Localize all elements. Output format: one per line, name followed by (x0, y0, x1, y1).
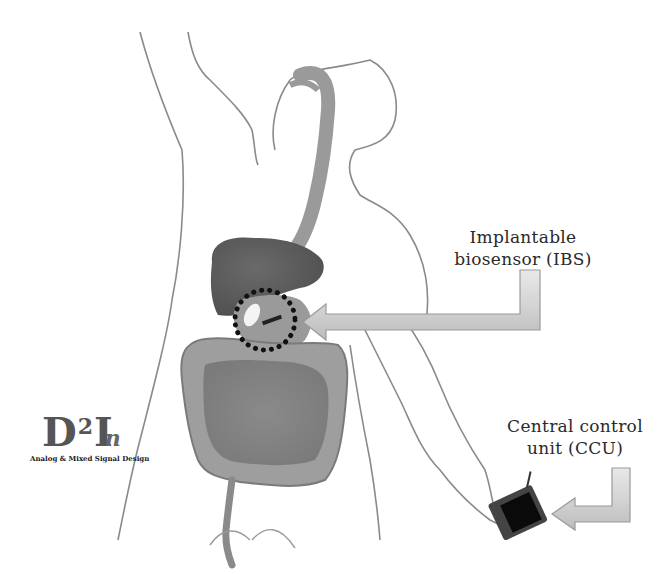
ccu-arrow (552, 468, 630, 530)
rectum (226, 480, 232, 565)
ccu-device (483, 471, 553, 541)
ibs-label-line1: Implantable (438, 226, 608, 248)
logo-letter-d: D (42, 408, 75, 455)
ccu-label: Central control unit (CCU) (485, 415, 664, 459)
logo-letter-n: n (105, 425, 119, 451)
ibs-label-line2: biosensor (IBS) (438, 248, 608, 270)
esophagus (290, 73, 328, 255)
mouth-detail (290, 82, 318, 90)
ccu-label-line2: unit (CCU) (485, 437, 664, 459)
anatomy-diagram (0, 0, 664, 574)
d2in-logo: D2In Analog & Mixed Signal Design (28, 408, 158, 468)
ccu-label-line1: Central control (485, 415, 664, 437)
logo-superscript: 2 (78, 413, 91, 439)
logo-subtitle: Analog & Mixed Signal Design (30, 454, 149, 463)
ibs-label: Implantable biosensor (IBS) (438, 226, 608, 270)
small-intestine (203, 360, 328, 465)
logo-wordmark: D2In (42, 408, 119, 455)
ibs-arrow (303, 270, 540, 340)
